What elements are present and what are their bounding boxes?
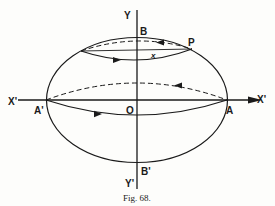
label-origin: O: [126, 105, 134, 116]
label-y-top: Y: [124, 10, 131, 21]
label-b-top: B: [140, 26, 147, 37]
label-p: P: [188, 37, 195, 48]
parallel-front-arrow-icon: [113, 57, 121, 63]
label-a-right: A: [226, 105, 233, 116]
figure-68: Y B P x X' A' O A X' B' Y' Fig. 68.: [0, 0, 275, 206]
label-x-left: X': [8, 96, 17, 107]
label-y-bottom: Y': [125, 178, 134, 189]
label-b-bottom: B': [141, 166, 151, 177]
label-x-right: X': [257, 94, 266, 105]
parallel-back-arrow-icon: [156, 40, 164, 46]
equator-back-arrow-icon: [174, 83, 182, 89]
label-a-left: A': [34, 105, 44, 116]
figure-caption: Fig. 68.: [123, 193, 151, 203]
label-x-var: x: [150, 51, 156, 60]
ellipsoid-diagram: Y B P x X' A' O A X' B' Y' Fig. 68.: [0, 0, 275, 206]
